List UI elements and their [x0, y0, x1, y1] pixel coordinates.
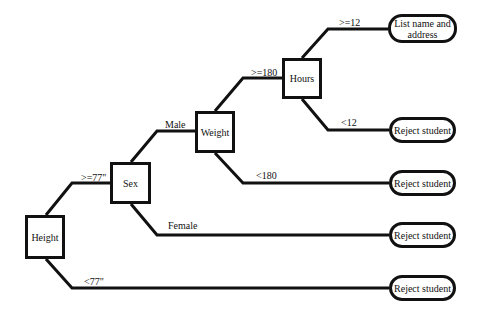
node-label: Sex — [123, 178, 138, 189]
terminal-reject4: Reject student — [389, 275, 456, 301]
terminal-reject3: Reject student — [389, 222, 456, 248]
node-label: Reject student — [394, 178, 451, 189]
terminal-reject2: Reject student — [389, 170, 456, 196]
edge-label: <77" — [84, 276, 104, 287]
node-label: Reject student — [394, 125, 451, 136]
decision-hours: Hours — [282, 58, 322, 99]
terminal-reject1: Reject student — [389, 117, 456, 143]
edge-label: Female — [168, 220, 197, 231]
node-label: Reject student — [394, 230, 451, 241]
edge-height-sex — [46, 183, 110, 215]
node-label: Height — [31, 232, 58, 243]
edge-label: >=12 — [339, 17, 360, 28]
edges-layer — [0, 0, 483, 315]
edge-label: <12 — [341, 117, 357, 128]
edge-hours-list — [302, 29, 388, 58]
edge-label: Male — [165, 119, 186, 130]
node-label: Hours — [290, 73, 314, 84]
edge-weight-reject2 — [215, 153, 389, 183]
edge-label: >=180 — [251, 67, 277, 78]
decision-sex: Sex — [110, 162, 151, 204]
decision-height: Height — [25, 215, 65, 259]
decision-weight: Weight — [195, 111, 235, 153]
edge-label: >=77" — [81, 172, 106, 183]
edge-weight-hours — [215, 78, 282, 111]
edge-sex-weight — [131, 131, 195, 162]
edge-label: <180 — [256, 170, 277, 181]
terminal-list: List name and address — [388, 14, 457, 43]
node-label: List name and address — [391, 18, 454, 40]
node-label: Reject student — [394, 283, 451, 294]
node-label: Weight — [201, 127, 230, 138]
